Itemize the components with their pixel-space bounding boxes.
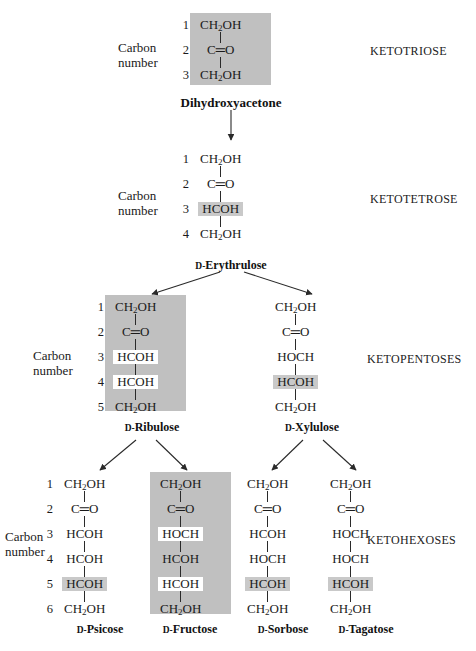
molecule-d-psicose: CH2OHC═OHCOHHCOHHCOHCH2OH	[60, 477, 109, 616]
molecule-row: HCOH	[62, 577, 107, 591]
formula-text: HCOH	[245, 527, 290, 541]
formula-text: HOCH	[273, 350, 318, 364]
bond-line	[84, 591, 85, 602]
formula-text: C═O	[250, 502, 285, 516]
bond-line	[267, 591, 268, 602]
carbon-number: 1	[175, 152, 189, 166]
molecule-name-text: D-Psicose	[77, 622, 124, 637]
molecule-row: C═O	[333, 502, 368, 516]
d-prefix: D-	[339, 625, 349, 635]
molecule-row: HOCH	[328, 527, 373, 541]
molecule-d-xylulose: CH2OHC═OHOCHHCOHCH2OH	[271, 300, 320, 414]
bond-line	[180, 591, 181, 602]
carbon-number-label-line2: number	[118, 55, 158, 70]
formula-text: CH2OH	[196, 68, 245, 83]
molecule-row: CH2OH	[196, 152, 245, 166]
molecule-row: C═O	[163, 502, 198, 516]
d-prefix: D-	[125, 423, 135, 433]
molecule-name-text: Dihydroxyacetone	[181, 95, 282, 111]
molecule-row: C═O	[203, 43, 238, 57]
carbon-number-label-line2: number	[5, 544, 45, 559]
carbon-number-label: Carbonnumber	[118, 40, 158, 70]
molecule-name-text: D-Erythrulose	[195, 258, 266, 273]
d-prefix: D-	[195, 261, 205, 271]
carbon-number: 4	[175, 227, 189, 241]
carbon-number: 6	[39, 602, 53, 616]
carbon-number-label-line1: Carbon	[118, 188, 156, 203]
carbon-number: 2	[175, 177, 189, 191]
molecule-row: CH2OH	[326, 602, 375, 616]
molecule-row: HCOH	[158, 552, 203, 566]
molecule-row: CH2OH	[196, 18, 245, 32]
carbon-number: 3	[175, 202, 189, 216]
carbon-number-label-line1: Carbon	[118, 40, 156, 55]
molecule-row: HCOH	[113, 350, 158, 364]
formula-text: CH2OH	[271, 400, 320, 415]
bond-line	[220, 216, 221, 227]
formula-text: CH2OH	[60, 602, 109, 617]
molecule-dihydroxyacetone: CH2OHC═OCH2OH	[196, 18, 245, 82]
molecule-row: CH2OH	[196, 68, 245, 82]
carbon-number: 1	[39, 477, 53, 491]
formula-text: CH2OH	[156, 602, 205, 617]
molecule-d-ribulose: CH2OHC═OHCOHHCOHCH2OH	[111, 300, 160, 414]
carbon-number-label: Carbonnumber	[5, 529, 45, 559]
molecule-row: HOCH	[158, 527, 203, 541]
formula-text: HOCH	[158, 527, 203, 541]
formula-text: C═O	[203, 177, 238, 191]
carbon-number: 4	[90, 375, 104, 389]
molecule-row: C═O	[118, 325, 153, 339]
molecule-row: CH2OH	[60, 477, 109, 491]
carbon-number: 2	[90, 325, 104, 339]
molecule-row: HCOH	[245, 577, 290, 591]
molecule-row: CH2OH	[271, 400, 320, 414]
diagram-canvas: KETOTRIOSE KETOTETROSE KETOPENTOSES KETO…	[0, 0, 476, 651]
molecule-d-erythrulose: CH2OHC═OHCOHCH2OH	[196, 152, 245, 241]
class-label-ketotriose: KETOTRIOSE	[370, 44, 447, 59]
molecule-name-text: D-Xylulose	[285, 420, 339, 435]
class-label-ketohexoses: KETOHEXOSES	[367, 533, 456, 548]
molecule-row: C═O	[203, 177, 238, 191]
formula-text: C═O	[67, 502, 102, 516]
formula-text: HCOH	[113, 350, 158, 364]
carbon-number: 3	[175, 68, 189, 82]
formula-text: CH2OH	[196, 227, 245, 242]
formula-text: C═O	[333, 502, 368, 516]
formula-text: CH2OH	[271, 300, 320, 315]
molecule-row: HCOH	[158, 577, 203, 591]
bond-line	[350, 591, 351, 602]
formula-text: CH2OH	[243, 602, 292, 617]
molecule-row: CH2OH	[111, 300, 160, 314]
molecule-row: HCOH	[113, 375, 158, 389]
carbon-number: 5	[90, 400, 104, 414]
formula-text: C═O	[278, 325, 313, 339]
formula-text: HCOH	[158, 552, 203, 566]
molecule-row: CH2OH	[111, 400, 160, 414]
molecule-name-text: D-Tagatose	[339, 622, 394, 637]
formula-text: C═O	[203, 43, 238, 57]
molecule-d-tagatose: CH2OHC═OHOCHHOCHHCOHCH2OH	[326, 477, 375, 616]
d-prefix: D-	[77, 625, 87, 635]
molecule-row: CH2OH	[243, 602, 292, 616]
formula-text: CH2OH	[60, 477, 109, 492]
formula-text: HOCH	[245, 552, 290, 566]
formula-text: CH2OH	[111, 300, 160, 315]
formula-text: C═O	[163, 502, 198, 516]
molecule-name-text: D-Sorbose	[258, 622, 309, 637]
molecule-d-sorbose: CH2OHC═OHCOHHOCHHCOHCH2OH	[243, 477, 292, 616]
molecule-row: HOCH	[273, 350, 318, 364]
molecule-row: HCOH	[198, 202, 243, 216]
molecule-name-text: D-Fructose	[163, 622, 218, 637]
molecule-d-fructose: CH2OHC═OHOCHHCOHHCOHCH2OH	[156, 477, 205, 616]
formula-text: C═O	[118, 325, 153, 339]
formula-text: HCOH	[273, 375, 318, 389]
formula-text: CH2OH	[243, 477, 292, 492]
formula-text: HCOH	[62, 552, 107, 566]
molecule-row: HCOH	[273, 375, 318, 389]
d-prefix: D-	[285, 423, 295, 433]
formula-text: CH2OH	[196, 152, 245, 167]
molecule-row: CH2OH	[271, 300, 320, 314]
molecule-row: HOCH	[245, 552, 290, 566]
molecule-row: CH2OH	[326, 477, 375, 491]
molecule-name-text: D-Ribulose	[125, 420, 180, 435]
